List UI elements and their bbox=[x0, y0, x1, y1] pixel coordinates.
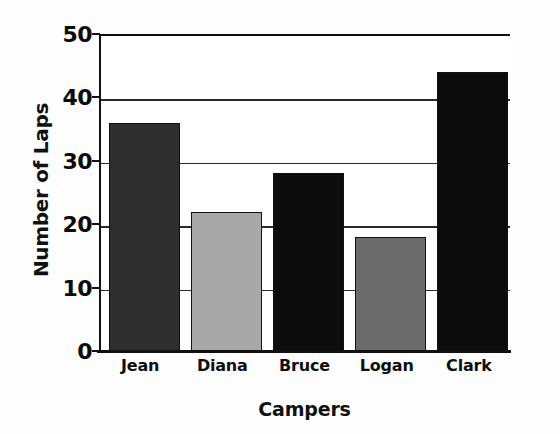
bar-jean bbox=[109, 123, 180, 351]
x-tick-label-clark: Clark bbox=[428, 356, 510, 375]
y-tick-mark-40 bbox=[92, 96, 100, 98]
x-axis-title: Campers bbox=[99, 398, 510, 420]
x-tick-label-logan: Logan bbox=[346, 356, 428, 375]
y-tick-label-40: 40 bbox=[48, 85, 92, 110]
y-tick-label-30: 30 bbox=[48, 148, 92, 173]
x-tick-label-diana: Diana bbox=[181, 356, 263, 375]
y-tick-label-10: 10 bbox=[48, 275, 92, 300]
bars-layer bbox=[101, 36, 510, 351]
y-axis-ticks: 01020304050 bbox=[48, 0, 92, 434]
y-tick-mark-50 bbox=[92, 33, 100, 35]
bar-bruce bbox=[273, 173, 344, 351]
y-tick-mark-0 bbox=[92, 350, 100, 352]
y-tick-mark-30 bbox=[92, 160, 100, 162]
y-tick-label-20: 20 bbox=[48, 212, 92, 237]
x-axis-tick-labels: JeanDianaBruceLoganClark bbox=[99, 356, 510, 384]
y-tick-mark-20 bbox=[92, 223, 100, 225]
plot-area bbox=[99, 34, 510, 351]
x-tick-label-jean: Jean bbox=[99, 356, 181, 375]
y-tick-label-50: 50 bbox=[48, 22, 92, 47]
y-tick-label-0: 0 bbox=[48, 339, 92, 364]
y-tick-mark-10 bbox=[92, 287, 100, 289]
x-axis-line bbox=[97, 350, 511, 353]
bar-chart-figure: Number of Laps 01020304050 JeanDianaBruc… bbox=[0, 0, 560, 434]
bar-clark bbox=[437, 72, 508, 351]
bar-logan bbox=[355, 237, 426, 351]
bar-diana bbox=[191, 212, 262, 351]
x-tick-label-bruce: Bruce bbox=[263, 356, 345, 375]
